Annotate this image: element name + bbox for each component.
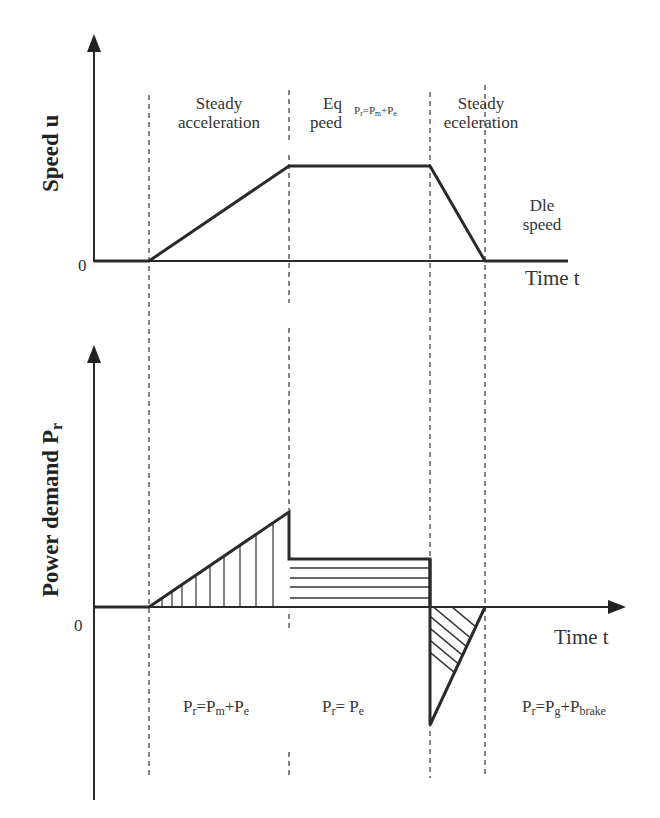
power-time-axis-label: Time t bbox=[554, 627, 609, 648]
formula-sub: e bbox=[359, 704, 364, 718]
power-axis-label: Power demand Pr bbox=[38, 423, 64, 597]
power-axis-label-sub: r bbox=[48, 423, 65, 430]
phase-label-line2: peed bbox=[304, 113, 342, 132]
phase-label-line2: eceleration bbox=[436, 113, 526, 132]
phase-label-steady-acceleration: Steady acceleration bbox=[164, 94, 274, 132]
speed-axis-label: Speed u bbox=[38, 115, 64, 192]
speed-chart-axes bbox=[93, 48, 568, 262]
formula-part: = P bbox=[335, 697, 358, 716]
power-chart-axes bbox=[93, 358, 612, 800]
formula-part: +P bbox=[225, 697, 244, 716]
time-axis-arrow-icon bbox=[608, 600, 626, 614]
speed-axis-arrow-icon bbox=[87, 34, 101, 52]
phase-label-line2: acceleration bbox=[164, 113, 274, 132]
phase-label-line2: speed bbox=[512, 215, 572, 234]
formula-sub: m bbox=[215, 704, 224, 718]
phase-label-line1: Steady bbox=[436, 94, 526, 113]
speed-time-axis-label: Time t bbox=[525, 268, 580, 289]
phase-label-equal-speed: Eq peed bbox=[304, 94, 342, 132]
phase-label-line1: Eq bbox=[304, 94, 342, 113]
power-axis-arrow-icon bbox=[87, 345, 101, 363]
speed-profile-line bbox=[94, 166, 568, 261]
formula-accel-power: Pr=Pm+Pe bbox=[183, 698, 249, 715]
formula-brake-power: Pr=Pg+Pbrake bbox=[522, 698, 606, 715]
decel-hatching bbox=[425, 597, 500, 698]
power-origin-label: 0 bbox=[74, 617, 83, 634]
formula-part: +P bbox=[381, 104, 393, 116]
phase-label-steady-deceleration: Steady eceleration bbox=[436, 94, 526, 132]
accel-hatching bbox=[162, 500, 273, 607]
formula-cruise-power: Pr= Pe bbox=[322, 698, 364, 715]
formula-part: =P bbox=[535, 697, 554, 716]
phase-dividers bbox=[149, 85, 485, 778]
phase-label-idle-speed: Dle speed bbox=[512, 196, 572, 234]
phase-formula-small: Pr=Pm+Pe bbox=[354, 105, 397, 116]
formula-part: +P bbox=[560, 697, 579, 716]
formula-sub: brake bbox=[579, 704, 605, 718]
speed-origin-label: 0 bbox=[78, 257, 87, 274]
phase-label-line1: Steady bbox=[164, 94, 274, 113]
power-axis-label-text: Power demand P bbox=[38, 430, 63, 597]
formula-sub: e bbox=[244, 704, 249, 718]
formula-part: =P bbox=[363, 104, 375, 116]
phase-label-line1: Dle bbox=[512, 196, 572, 215]
speed-axis-label-text: Speed u bbox=[38, 115, 63, 192]
formula-part: =P bbox=[196, 697, 215, 716]
formula-sub: e bbox=[393, 109, 396, 118]
cruise-hatching bbox=[290, 568, 429, 598]
